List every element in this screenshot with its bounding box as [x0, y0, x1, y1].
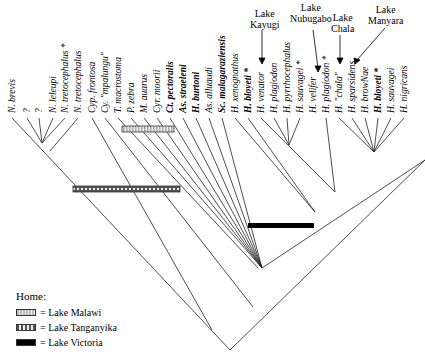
lake-chala-label: LakeChala — [331, 12, 354, 34]
leaf-label: Cyr. moorii — [152, 70, 162, 113]
leaf-label: H. bloyeti * — [373, 68, 383, 113]
leaf-label: ? — [34, 108, 44, 113]
leaf-label: N. tretocephalus * — [60, 43, 70, 113]
leaf-label: As. straeleni — [178, 64, 188, 113]
legend-title: Home: — [16, 290, 117, 302]
leaf-label: As. alluaudi — [204, 67, 214, 113]
leaf-label: H. sparsidens — [347, 61, 357, 113]
leaf-label: N. tretocephalus — [73, 51, 83, 113]
leaf-label: Cy. "mpalungu" — [100, 52, 110, 113]
leaf-label: H. burtoni — [191, 72, 201, 113]
lake-nubugabo-label: LakeNubugabo — [290, 2, 332, 24]
leaf-label: H. velifer — [308, 77, 318, 113]
leaf-label: ? — [22, 108, 32, 113]
leaf-label: H. nigricans — [399, 66, 409, 114]
leaf-label: N. leleupi — [48, 76, 58, 113]
legend: Home: = Lake Malawi = Lake Tanganyika = … — [16, 290, 117, 351]
lake-kayugi-label: LakeKayugi — [250, 8, 279, 30]
leaf-label: H. "chala" — [334, 72, 344, 113]
leaf-label: H. plagiodon * — [321, 56, 331, 113]
tanganyika-bar — [73, 186, 180, 192]
spine — [230, 160, 425, 350]
leaf-label: H. sauvagei — [386, 68, 396, 113]
legend-victoria: = Lake Victoria — [16, 336, 117, 349]
lake-manyara-label: LakeManyara — [368, 4, 404, 26]
leaf-label: H. venator — [256, 72, 266, 113]
leaf-label: H. bloyeti * — [243, 68, 253, 113]
leaf-label: M. auarus — [139, 74, 149, 113]
malawi-bar — [122, 126, 174, 132]
leaf-label: H. plagiodon — [269, 63, 279, 113]
malawi-swatch — [16, 309, 36, 316]
leaf-label: Cyp. frontosa — [87, 62, 97, 113]
victoria-bar — [248, 223, 314, 228]
leaf-label: Sc. malagaraziensis — [217, 35, 227, 113]
leaf-label: P. zebra — [126, 83, 136, 113]
leaf-label: Ct. pectoralis — [165, 61, 175, 113]
legend-malawi: = Lake Malawi — [16, 306, 117, 319]
tanganyika-swatch — [16, 324, 36, 331]
leaf-label: T. macrostoma — [113, 57, 123, 113]
leaf-label: H. browNae — [360, 67, 370, 113]
leaf-label: H. xenognathus — [230, 53, 240, 113]
leaf-label: H. pyrrhocephalus — [282, 42, 292, 113]
legend-tanganyika: = Lake Tanganyika — [16, 321, 117, 334]
leaf-label: N. brevis — [7, 79, 17, 113]
leaf-label: H. sauvagei * — [295, 60, 305, 113]
victoria-swatch — [16, 339, 36, 346]
